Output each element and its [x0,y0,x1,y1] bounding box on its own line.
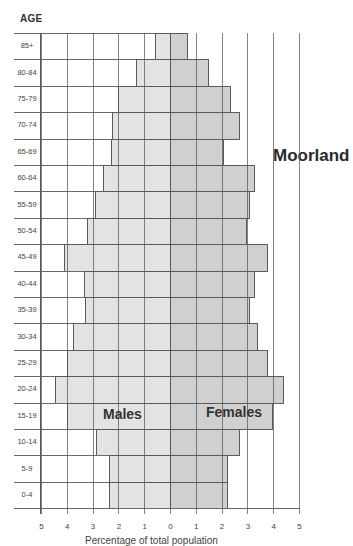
x-tick-label: 1 [138,522,152,531]
age-group-label: 10-14 [14,437,40,446]
male-bar [155,33,171,60]
age-group-label: 70-74 [14,120,40,129]
age-group-label: 80-84 [14,68,40,77]
age-group-label: 55-59 [14,200,40,209]
age-group-label: 15-19 [14,411,40,420]
age-group-label: 35-39 [14,305,40,314]
grid-line [93,33,94,514]
x-axis-title: Percentage of total population [85,535,218,546]
grid-line [41,33,42,514]
x-tick-label: 3 [86,522,100,531]
female-bar [170,376,284,403]
x-tick-label: 1 [189,522,203,531]
female-bar [170,244,268,271]
y-axis-title: AGE [20,13,43,24]
grid-line [170,33,171,514]
age-group-label: 50-54 [14,226,40,235]
male-bar [85,297,171,324]
age-group-label: 65-69 [14,147,40,156]
x-tick-label: 0 [164,522,178,531]
female-bar [170,297,250,324]
male-bar [111,139,171,166]
male-bar [96,429,171,456]
x-tick-label: 4 [267,522,281,531]
female-bar [170,323,258,350]
female-bar [170,139,224,166]
grid-line [247,33,248,514]
grid-line [67,33,68,514]
x-tick-label: 5 [35,522,49,531]
female-bar [170,191,250,218]
grid-line [222,33,223,514]
x-tick-label: 2 [112,522,126,531]
female-bar [170,33,188,60]
female-bar [170,350,268,377]
age-group-label: 5-9 [14,464,40,473]
females-label: Females [206,404,262,420]
age-group-label: 0-4 [14,490,40,499]
grid-line [196,33,197,514]
male-bar [84,271,171,298]
male-bar [87,218,171,245]
female-bar [170,429,240,456]
female-bar [170,455,228,482]
age-group-label: 30-34 [14,332,40,341]
male-bar [73,323,171,350]
age-group-label: 75-79 [14,94,40,103]
male-bar [55,376,171,403]
chart-title: Moorland [273,146,350,166]
age-group-label: 40-44 [14,279,40,288]
x-tick-label: 3 [241,522,255,531]
female-bar [170,165,255,192]
grid-line [118,33,119,514]
male-bar [136,59,171,86]
grid-line [273,33,274,514]
age-group-label: 20-24 [14,384,40,393]
males-label: Males [103,406,142,422]
female-bar [170,218,247,245]
age-group-label: 25-29 [14,358,40,367]
age-group-label: 45-49 [14,252,40,261]
male-bar [95,191,171,218]
age-group-label: 85+ [14,41,40,50]
female-bar [170,112,240,139]
x-tick-label: 5 [293,522,307,531]
female-bar [170,59,209,86]
age-group-label: 60-64 [14,173,40,182]
x-tick-label: 2 [215,522,229,531]
male-bar [103,165,171,192]
grid-line [144,33,145,514]
x-axis-line [14,508,300,509]
female-bar [170,482,228,509]
male-bar [112,112,171,139]
grid-line [299,33,300,514]
x-tick-label: 4 [60,522,74,531]
female-bar [170,271,255,298]
